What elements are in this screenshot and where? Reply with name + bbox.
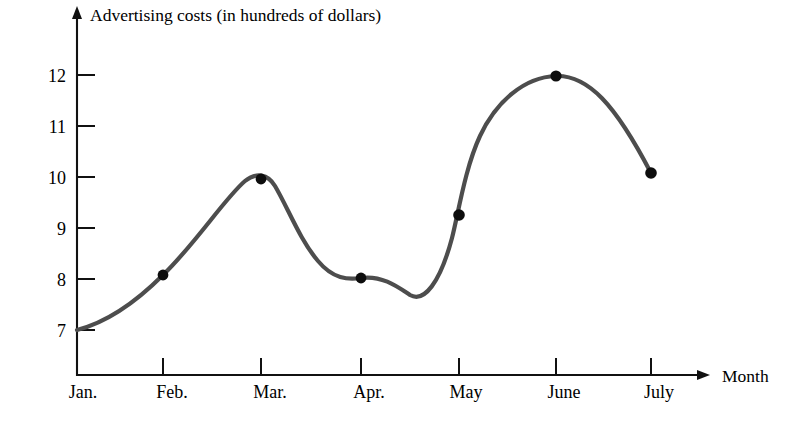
right-arrow-icon — [697, 370, 710, 380]
x-tick-group — [163, 358, 651, 375]
y-tick-label: 8 — [57, 270, 66, 290]
up-arrow-icon — [72, 6, 82, 19]
axis-group — [72, 6, 710, 380]
x-tick-label: Apr. — [353, 382, 385, 402]
y-tick-label: 10 — [48, 168, 66, 188]
data-point-mar — [256, 174, 267, 185]
data-series-group — [77, 76, 651, 330]
data-point-feb — [158, 270, 169, 281]
x-tick-label-group: Jan. Feb. Mar. Apr. May June July — [69, 382, 674, 402]
y-tick-group — [77, 75, 95, 330]
x-axis-title: Month — [722, 366, 769, 386]
x-tick-label: Jan. — [69, 382, 98, 402]
x-tick-label: Feb. — [156, 382, 188, 402]
data-point-july — [645, 167, 657, 179]
y-tick-label: 12 — [48, 66, 66, 86]
advertising-costs-line-chart: 12 11 10 9 8 7 Jan. Feb. Mar. Apr. May J… — [0, 0, 806, 434]
y-tick-label: 11 — [49, 117, 66, 137]
y-tick-label: 7 — [57, 321, 66, 341]
chart-title: Advertising costs (in hundreds of dollar… — [90, 5, 381, 25]
x-tick-label: June — [548, 382, 581, 402]
y-tick-label: 9 — [57, 219, 66, 239]
advertising-costs-curve — [77, 76, 651, 330]
data-point-june — [550, 70, 561, 81]
chart-canvas: 12 11 10 9 8 7 Jan. Feb. Mar. Apr. May J… — [0, 0, 806, 434]
x-tick-label: Mar. — [253, 382, 287, 402]
y-tick-label-group: 12 11 10 9 8 7 — [48, 66, 66, 341]
data-point-group — [158, 70, 657, 283]
x-tick-label: July — [644, 382, 674, 402]
data-point-may — [453, 209, 465, 221]
x-tick-label: May — [450, 382, 483, 402]
data-point-apr — [356, 273, 367, 284]
